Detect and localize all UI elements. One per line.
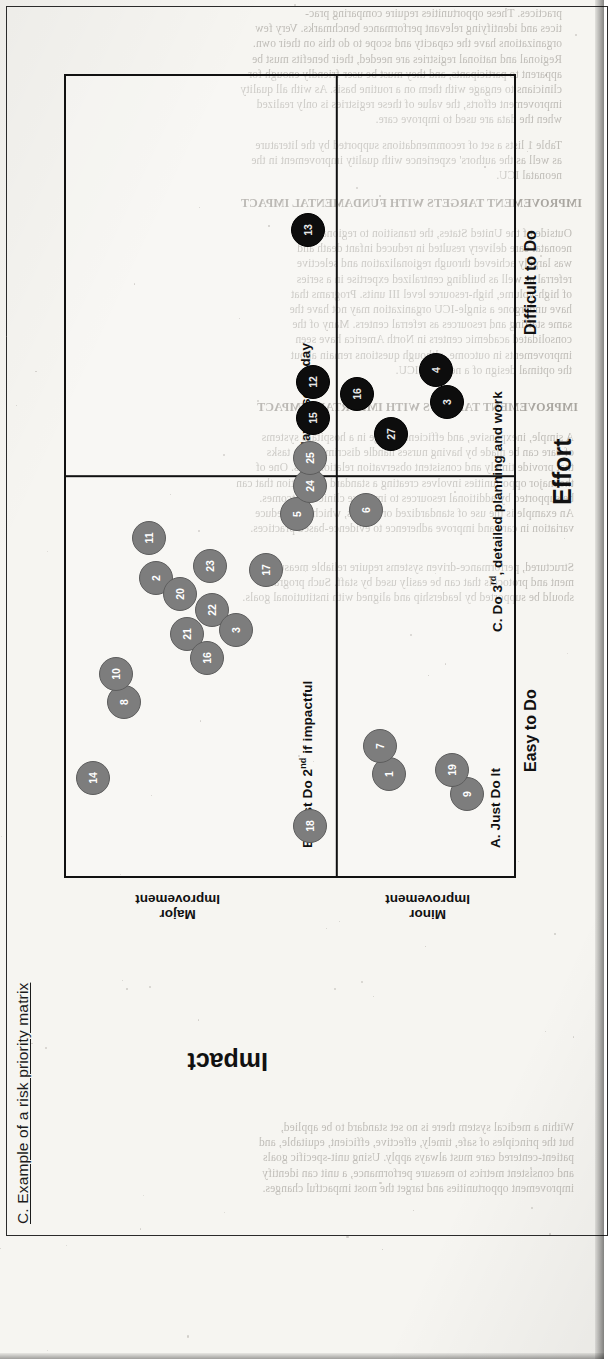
data-point-label: 23 <box>204 560 216 572</box>
scan-speckle <box>435 573 436 574</box>
scan-speckle <box>531 1207 533 1209</box>
scan-speckle <box>141 894 142 895</box>
data-point-bubble: 14 <box>76 761 110 795</box>
scan-speckle <box>454 491 456 493</box>
y-axis-low-label: Minor Improvement <box>385 892 470 922</box>
scan-speckle <box>35 371 36 372</box>
scan-speckle <box>373 996 374 997</box>
data-point-label: 16 <box>201 652 213 664</box>
data-point-label: 20 <box>174 588 186 600</box>
y-axis-high-label: Major Improvement <box>135 892 220 922</box>
scan-speckle <box>484 166 485 167</box>
scan-speckle <box>294 4 296 6</box>
data-point-bubble: 4 <box>419 353 453 387</box>
scan-speckle <box>149 986 151 988</box>
risk-priority-matrix-figure: C. Example of a risk priority matrix A. … <box>0 0 612 1240</box>
scan-speckle <box>47 1350 48 1351</box>
scan-speckle <box>379 1182 381 1184</box>
scan-speckle <box>47 551 48 552</box>
data-point-label: 14 <box>87 772 99 784</box>
scan-speckle <box>554 933 556 935</box>
horizontal-divider <box>336 76 338 876</box>
quadrant-c-tail: , detailed planning and work <box>490 391 505 575</box>
scan-speckle <box>382 1249 383 1250</box>
scan-speckle <box>122 980 123 981</box>
data-point-label: 27 <box>385 428 397 440</box>
y-low-line2: Improvement <box>385 892 470 907</box>
quadrant-label-a: A. Just Do It <box>488 768 503 848</box>
quadrant-c-sup: rd <box>488 576 498 585</box>
data-point-label: 8 <box>118 699 130 705</box>
data-point-label: 13 <box>302 224 314 236</box>
data-point-bubble: 12 <box>296 365 330 399</box>
y-axis-title: Impact <box>187 1047 268 1076</box>
data-point-label: 17 <box>260 564 272 576</box>
data-point-label: 19 <box>446 764 458 776</box>
scan-speckle <box>413 1210 414 1211</box>
data-point-bubble: 11 <box>132 521 166 555</box>
data-point-bubble: 10 <box>99 657 133 691</box>
scan-speckle <box>134 283 136 285</box>
data-point-bubble: 23 <box>193 549 227 583</box>
scan-speckle <box>309 224 310 225</box>
figure-caption: C. Example of a risk priority matrix <box>14 983 32 1224</box>
scan-speckle <box>268 225 270 227</box>
quadrant-label-c: C. Do 3rd, detailed planning and work <box>488 391 505 632</box>
scan-speckle <box>428 675 429 676</box>
data-point-bubble: 19 <box>435 753 469 787</box>
data-point-label: 15 <box>307 412 319 424</box>
scan-speckle <box>361 981 363 983</box>
data-point-bubble: 7 <box>363 729 397 763</box>
scan-speckle <box>346 1236 348 1238</box>
data-point-label: 7 <box>374 743 386 749</box>
figure-caption-text: C. Example of a risk priority matrix <box>14 983 31 1224</box>
data-point-label: 9 <box>461 791 473 797</box>
data-point-label: 25 <box>304 452 316 464</box>
page-bottom-shadow <box>0 1353 604 1359</box>
data-point-label: 4 <box>430 367 442 373</box>
scan-speckle <box>66 1245 67 1246</box>
x-axis-high-label: Difficult to Do <box>522 230 540 335</box>
scan-speckle <box>0 1248 1 1249</box>
data-point-bubble: 3 <box>430 385 464 419</box>
quadrant-b-tail: if impactful <box>300 681 315 758</box>
data-point-bubble: 27 <box>374 417 408 451</box>
scan-speckle <box>200 720 202 722</box>
data-point-label: 12 <box>307 376 319 388</box>
data-point-label: 10 <box>110 668 122 680</box>
data-point-label: 21 <box>181 628 193 640</box>
scan-speckle <box>573 1036 574 1037</box>
data-point-label: 3 <box>230 627 242 633</box>
x-axis-low-label: Easy to Do <box>522 689 540 772</box>
data-point-bubble: 17 <box>249 553 283 587</box>
data-point-label: 6 <box>360 507 372 513</box>
data-point-label: 2 <box>150 575 162 581</box>
vertical-divider <box>66 475 514 477</box>
quadrant-b-sup: nd <box>298 758 308 769</box>
data-point-label: 24 <box>304 480 316 492</box>
data-point-label: 5 <box>291 511 303 517</box>
data-point-label: 11 <box>143 532 155 543</box>
scan-speckle <box>379 195 380 196</box>
scan-speckle <box>1 836 2 837</box>
quadrant-c-head: C. Do 3 <box>490 585 505 632</box>
scan-speckle <box>120 874 121 875</box>
scan-speckle <box>549 1233 551 1235</box>
scan-speckle <box>187 1335 189 1337</box>
scan-speckle <box>126 988 127 989</box>
y-high-line1: Major <box>160 907 196 922</box>
y-low-line1: Minor <box>409 907 446 922</box>
data-point-label: 1 <box>383 771 395 777</box>
data-point-label: 22 <box>206 604 218 616</box>
data-point-label: 16 <box>351 388 363 400</box>
x-axis-title: Effort <box>548 438 577 505</box>
data-point-bubble: 15 <box>296 401 330 435</box>
scan-speckle <box>257 400 259 402</box>
data-point-label: 18 <box>304 820 316 832</box>
scan-speckle <box>425 946 426 947</box>
data-point-label: 3 <box>441 399 453 405</box>
scan-speckle <box>545 74 546 75</box>
figure-rotated-container: C. Example of a risk priority matrix A. … <box>0 0 612 1240</box>
data-point-bubble: 13 <box>291 213 325 247</box>
